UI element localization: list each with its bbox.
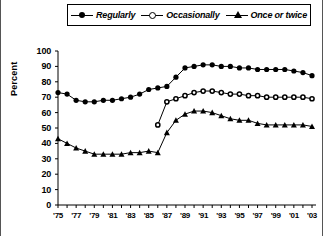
y-axis-tick-label: 10 bbox=[29, 185, 51, 195]
y-axis-tick-label: 30 bbox=[29, 154, 51, 164]
x-axis-tick-label: '01 bbox=[284, 211, 304, 220]
x-axis-tick-label: '77 bbox=[66, 211, 86, 220]
y-axis-tick-label: 100 bbox=[29, 46, 51, 56]
y-axis-tick-label: 20 bbox=[29, 169, 51, 179]
y-axis-tick-label: 60 bbox=[29, 108, 51, 118]
x-axis-tick-label: '99 bbox=[266, 211, 286, 220]
y-axis-tick-label: 90 bbox=[29, 61, 51, 71]
x-axis-tick-label: '03 bbox=[302, 211, 322, 220]
y-axis-tick-label: 70 bbox=[29, 92, 51, 102]
series-once-or-twice bbox=[55, 108, 315, 157]
x-axis-tick-label: '87 bbox=[157, 211, 177, 220]
x-axis-tick-label: '95 bbox=[229, 211, 249, 220]
x-axis-tick-label: '85 bbox=[139, 211, 159, 220]
plot-area: 0102030405060708090100 '75'77'79'81'83'8… bbox=[1, 0, 323, 236]
y-axis-tick-label: 40 bbox=[29, 138, 51, 148]
x-axis-tick-label: '83 bbox=[121, 211, 141, 220]
y-axis-tick-label: 50 bbox=[29, 123, 51, 133]
x-axis-tick-label: '91 bbox=[193, 211, 213, 220]
x-axis-tick-label: '93 bbox=[211, 211, 231, 220]
x-axis-tick-label: '89 bbox=[175, 211, 195, 220]
y-axis-tick-label: 0 bbox=[29, 200, 51, 210]
x-axis-tick-label: '75 bbox=[48, 211, 68, 220]
x-axis-tick-label: '79 bbox=[84, 211, 104, 220]
x-axis-tick-label: '97 bbox=[248, 211, 268, 220]
x-axis-tick-label: '81 bbox=[102, 211, 122, 220]
y-axis-tick-label: 80 bbox=[29, 77, 51, 87]
series-occasionally bbox=[156, 89, 314, 127]
chart-frame: Regularly Occasionally Once or twice Per… bbox=[0, 0, 323, 236]
